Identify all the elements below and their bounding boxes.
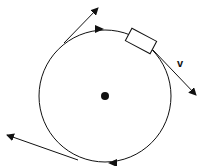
moving-block bbox=[125, 28, 156, 54]
velocity-label: v bbox=[177, 57, 184, 69]
velocity-arrow-upper-left bbox=[64, 8, 98, 43]
center-dot bbox=[101, 92, 109, 100]
velocity-arrow-bottom-left bbox=[7, 135, 78, 160]
path-direction-arrow-top bbox=[95, 25, 104, 33]
path-direction-arrow-bottom bbox=[108, 159, 117, 166]
velocity-arrow-v bbox=[153, 50, 196, 95]
circular-motion-diagram: v bbox=[0, 0, 203, 166]
